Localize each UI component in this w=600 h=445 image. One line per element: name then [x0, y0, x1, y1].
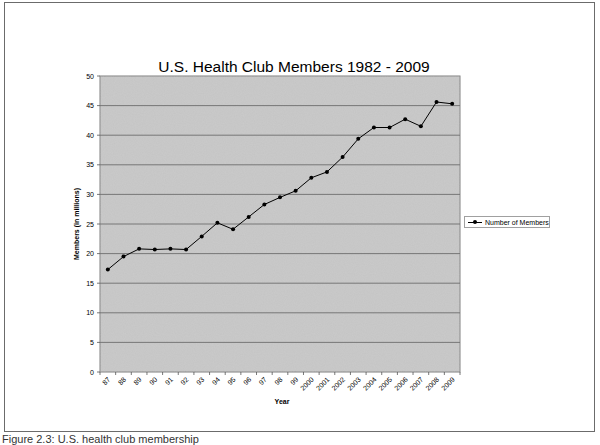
x-tick-label: 2000	[299, 376, 315, 392]
x-tick-label: 91	[164, 376, 175, 387]
x-tick-label: 88	[117, 376, 128, 387]
data-point-marker	[388, 126, 392, 130]
y-axis-label: Members (in millions)	[73, 188, 81, 260]
y-tick-label: 30	[86, 191, 94, 198]
y-tick-label: 45	[86, 102, 94, 109]
y-tick-label: 20	[86, 250, 94, 257]
data-point-marker	[309, 176, 313, 180]
x-tick-label: 95	[226, 376, 237, 387]
data-point-marker	[168, 247, 172, 251]
y-tick-label: 40	[86, 132, 94, 139]
x-tick-label: 2002	[330, 376, 346, 392]
data-point-marker	[137, 247, 141, 251]
data-point-marker	[121, 255, 125, 259]
data-point-marker	[200, 234, 204, 238]
data-point-marker	[294, 189, 298, 193]
x-tick-label: 89	[132, 376, 143, 387]
y-tick-label: 35	[86, 161, 94, 168]
x-tick-label: 97	[258, 376, 269, 387]
data-point-marker	[231, 227, 235, 231]
legend-line-marker-icon	[468, 222, 482, 223]
x-axis: 8788899091929394959697989920002001200220…	[100, 372, 460, 392]
y-axis: 05101520253035404550	[86, 73, 100, 376]
y-tick-label: 5	[90, 339, 94, 346]
data-point-marker	[325, 170, 329, 174]
legend: Number of Members	[464, 216, 550, 228]
x-tick-label: 94	[211, 376, 222, 387]
legend-label: Number of Members	[485, 219, 549, 226]
y-tick-label: 50	[86, 73, 94, 80]
y-tick-label: 10	[86, 309, 94, 316]
data-point-marker	[153, 247, 157, 251]
x-tick-label: 2004	[362, 376, 378, 392]
x-tick-label: 98	[273, 376, 284, 387]
data-point-marker	[356, 137, 360, 141]
data-point-marker	[419, 124, 423, 128]
y-tick-label: 15	[86, 280, 94, 287]
data-point-marker	[106, 268, 110, 272]
figure-caption: Figure 2.3: U.S. health club membership	[2, 433, 199, 445]
y-tick-label: 25	[86, 221, 94, 228]
x-tick-label: 92	[179, 376, 190, 387]
x-tick-label: 2001	[315, 376, 331, 392]
x-tick-label: 2008	[424, 376, 440, 392]
data-point-marker	[247, 215, 251, 219]
x-tick-label: 2009	[440, 376, 456, 392]
data-point-marker	[262, 202, 266, 206]
data-point-marker	[450, 102, 454, 106]
x-tick-label: 96	[242, 376, 253, 387]
x-tick-label: 93	[195, 376, 206, 387]
chart-title: U.S. Health Club Members 1982 - 2009	[158, 58, 429, 75]
x-tick-label: 87	[101, 376, 112, 387]
data-point-marker	[215, 221, 219, 225]
x-tick-label: 2005	[377, 376, 393, 392]
data-point-marker	[341, 155, 345, 159]
x-axis-label: Year	[275, 398, 290, 405]
data-point-marker	[184, 247, 188, 251]
data-point-marker	[435, 100, 439, 104]
x-tick-label: 90	[148, 376, 159, 387]
x-tick-label: 2006	[393, 376, 409, 392]
y-tick-label: 0	[90, 369, 94, 376]
x-tick-label: 99	[289, 376, 300, 387]
data-point-marker	[403, 117, 407, 121]
x-tick-label: 2007	[409, 376, 425, 392]
data-point-marker	[372, 126, 376, 130]
x-tick-label: 2003	[346, 376, 362, 392]
data-point-marker	[278, 195, 282, 199]
